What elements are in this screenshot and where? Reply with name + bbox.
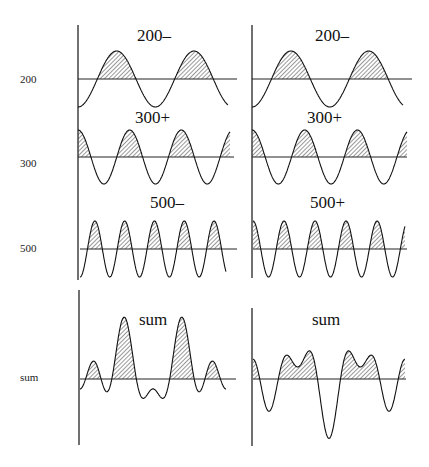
panel-title-left-sum: sum (139, 310, 167, 330)
panel-title-right-500: 500+ (310, 193, 345, 213)
panel-title-left-200: 200– (137, 26, 171, 46)
wave-right-sum (253, 351, 405, 439)
row-label-sum: sum (20, 371, 38, 383)
panel-title-right-sum: sum (312, 310, 340, 330)
row-label-500: 500 (20, 242, 37, 254)
row-label-200: 200 (20, 73, 37, 85)
axes (78, 25, 252, 446)
panel-title-right-200: 200– (315, 26, 349, 46)
panel-title-left-500: 500– (150, 193, 184, 213)
panel-title-right-300: 300+ (307, 108, 342, 128)
row-label-300: 300 (20, 157, 37, 169)
waveform-diagram (0, 0, 429, 467)
waves (78, 51, 412, 438)
panel-title-left-300: 300+ (135, 108, 170, 128)
